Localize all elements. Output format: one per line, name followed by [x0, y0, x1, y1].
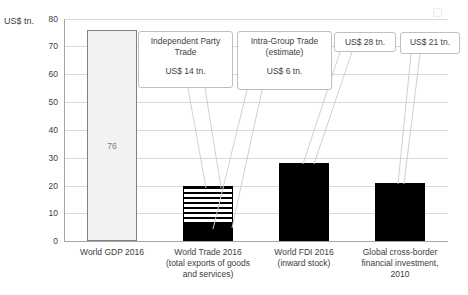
callout-value: US$ 21 tn. — [404, 37, 456, 48]
callout-value: US$ 14 tn. — [142, 66, 229, 77]
y-tick-10: 10 — [32, 208, 58, 218]
chart-container: US$ tn. 80 70 60 50 40 30 20 10 0 76 Wor… — [0, 0, 468, 295]
callout-title-line1: Independent Party — [142, 36, 229, 47]
x-label-line1: World GDP 2016 — [80, 247, 144, 257]
x-label-line1: World Trade 2016 — [174, 247, 241, 257]
leader-line-independent-party-2 — [205, 88, 221, 188]
x-label-world-trade: World Trade 2016 (total exports of goods… — [154, 247, 262, 280]
x-label-line1: Global cross-border — [363, 247, 438, 257]
x-label-line1: World FDI 2016 — [274, 247, 333, 257]
callout-independent-party-trade[interactable]: Independent Party Trade US$ 14 tn. — [138, 31, 233, 88]
bar-world-trade-intra-group[interactable] — [183, 224, 233, 241]
y-tick-80: 80 — [32, 14, 58, 24]
y-tick-50: 50 — [32, 97, 58, 107]
bar-value-label-gdp: 76 — [88, 141, 136, 151]
axis-baseline — [64, 241, 448, 242]
bar-global-cross-border-investment[interactable] — [375, 183, 425, 241]
leader-line-independent-party — [188, 88, 206, 188]
callout-intra-group-trade[interactable]: Intra-Group Trade (estimate) US$ 6 tn. — [237, 31, 332, 90]
stray-artifact — [433, 8, 442, 17]
callout-global-investment-value[interactable]: US$ 21 tn. — [400, 32, 460, 54]
y-tick-20: 20 — [32, 181, 58, 191]
callout-title-line2: Trade — [142, 47, 229, 58]
callout-value: US$ 6 tn. — [241, 66, 328, 77]
callout-value: US$ 28 tn. — [338, 37, 392, 48]
y-axis-title: US$ tn. — [4, 16, 34, 26]
y-tick-30: 30 — [32, 153, 58, 163]
bar-world-gdp[interactable]: 76 — [87, 30, 137, 241]
y-axis-line — [64, 19, 65, 241]
bar-world-trade-independent-party[interactable] — [183, 186, 233, 225]
y-tick-40: 40 — [32, 125, 58, 135]
x-label-line2: financial investment, — [361, 258, 438, 268]
bar-world-fdi[interactable] — [279, 163, 329, 241]
y-tick-60: 60 — [32, 69, 58, 79]
x-label-global-cross-border: Global cross-border financial investment… — [346, 247, 454, 280]
x-label-line3: 2010 — [391, 269, 410, 279]
callout-world-fdi-value[interactable]: US$ 28 tn. — [334, 32, 396, 52]
x-label-world-fdi: World FDI 2016 (inward stock) — [252, 247, 356, 269]
gridline-80 — [64, 19, 448, 20]
callout-title-line2: (estimate) — [241, 47, 328, 58]
x-label-world-gdp: World GDP 2016 — [62, 247, 162, 258]
leader-line-intra-group-2 — [232, 90, 262, 228]
callout-title-line1: Intra-Group Trade — [241, 36, 328, 47]
x-label-line3: and services) — [183, 269, 234, 279]
y-tick-0: 0 — [32, 236, 58, 246]
x-label-line2: (inward stock) — [278, 258, 331, 268]
x-label-line2: (total exports of goods — [166, 258, 250, 268]
y-tick-70: 70 — [32, 41, 58, 51]
